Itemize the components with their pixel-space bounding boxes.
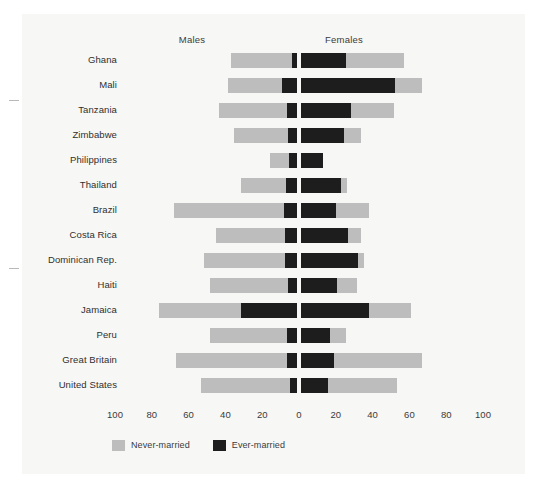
bar-segment-female-ever-married [301,303,369,318]
bar-segment-male-ever-married [289,153,297,168]
bar-segment-male-ever-married [287,103,297,118]
column-header-males: Males [179,34,205,45]
bar-segment-male-never-married [210,328,287,343]
chart-row: Brazil [22,198,525,223]
bar-segment-male-never-married [176,353,286,368]
bar-segment-female-ever-married [301,253,358,268]
bar-group [22,223,525,248]
bar-group [22,198,525,223]
chart-row: Ghana [22,48,525,73]
chart-row: United States [22,373,525,398]
chart-row: Mali [22,73,525,98]
x-axis-tick-label: 20 [257,409,268,420]
legend-label: Never-married [131,440,190,450]
legend-item: Never-married [112,440,190,451]
x-axis-tick-label: 80 [441,409,452,420]
bar-segment-male-ever-married [287,328,297,343]
chart-legend: Never-marriedEver-married [112,438,301,452]
bar-segment-female-never-married [369,303,412,318]
legend-swatch-never-married [112,440,125,451]
bar-group [22,123,525,148]
bar-segment-male-ever-married [285,228,297,243]
bar-segment-male-ever-married [292,53,297,68]
bar-segment-male-never-married [216,228,285,243]
legend-swatch-ever-married [213,440,226,451]
bar-segment-male-ever-married [286,178,297,193]
bar-group [22,373,525,398]
bar-segment-female-never-married [348,228,361,243]
legend-label: Ever-married [232,440,285,450]
bar-segment-female-never-married [358,253,364,268]
bar-group [22,323,525,348]
bar-segment-female-never-married [344,128,361,143]
bar-segment-male-ever-married [290,378,297,393]
legend-item: Ever-married [213,440,285,451]
x-axis-tick-label: 80 [147,409,158,420]
chart-row: Peru [22,323,525,348]
bar-segment-female-never-married [346,53,404,68]
bar-group [22,273,525,298]
bar-segment-male-never-married [234,128,288,143]
bar-segment-male-ever-married [282,78,297,93]
bar-segment-male-ever-married [288,278,297,293]
bar-segment-female-ever-married [301,178,341,193]
chart-row: Haiti [22,273,525,298]
bar-group [22,298,525,323]
bar-segment-male-never-married [204,253,285,268]
x-axis-tick-label: 20 [331,409,342,420]
x-axis-tick-label: 100 [107,409,123,420]
bar-segment-male-ever-married [287,353,297,368]
bar-segment-female-ever-married [301,278,337,293]
bar-segment-female-never-married [395,78,423,93]
bar-segment-male-never-married [210,278,289,293]
chart-row: Jamaica [22,298,525,323]
bar-segment-male-ever-married [284,203,297,218]
bar-segment-male-never-married [241,178,287,193]
x-axis-tick-label: 40 [367,409,378,420]
chart-row: Thailand [22,173,525,198]
bar-segment-male-ever-married [285,253,297,268]
page-margin-rule-bottom [9,268,19,269]
x-axis-tick-label: 100 [475,409,491,420]
bar-segment-female-never-married [334,353,422,368]
page-margin-rule-top [9,100,19,101]
chart-row: Tanzania [22,98,525,123]
chart-row: Great Britain [22,348,525,373]
x-axis: 10080604020020406080100 [22,409,525,429]
bar-segment-female-ever-married [301,53,346,68]
bar-group [22,148,525,173]
bar-segment-female-never-married [330,328,347,343]
bar-segment-female-ever-married [301,378,328,393]
bar-segment-male-never-married [219,103,287,118]
bar-segment-female-never-married [341,178,347,193]
bar-segment-female-never-married [337,278,357,293]
bar-group [22,248,525,273]
bar-segment-male-never-married [201,378,289,393]
bar-segment-male-never-married [231,53,292,68]
bar-segment-male-ever-married [241,303,297,318]
bar-segment-female-never-married [328,378,397,393]
bar-segment-male-never-married [159,303,241,318]
x-axis-tick-label: 60 [183,409,194,420]
population-pyramid-chart: Males Females GhanaMaliTanzaniaZimbabweP… [22,14,525,474]
bar-segment-male-never-married [270,153,288,168]
bar-segment-female-ever-married [301,103,351,118]
x-axis-tick-label: 60 [404,409,415,420]
bar-segment-female-never-married [351,103,395,118]
bar-segment-female-ever-married [301,228,348,243]
chart-row: Zimbabwe [22,123,525,148]
bar-segment-female-never-married [336,203,369,218]
bar-segment-female-ever-married [301,128,344,143]
x-axis-tick-label: 40 [220,409,231,420]
bar-group [22,348,525,373]
chart-row: Costa Rica [22,223,525,248]
chart-row: Philippines [22,148,525,173]
chart-page: Males Females GhanaMaliTanzaniaZimbabweP… [0,0,537,482]
chart-row: Dominican Rep. [22,248,525,273]
bar-group [22,73,525,98]
bar-segment-female-ever-married [301,153,323,168]
bar-segment-female-ever-married [301,328,330,343]
bar-segment-female-ever-married [301,78,395,93]
column-header-females: Females [325,34,363,45]
bar-segment-male-ever-married [288,128,297,143]
